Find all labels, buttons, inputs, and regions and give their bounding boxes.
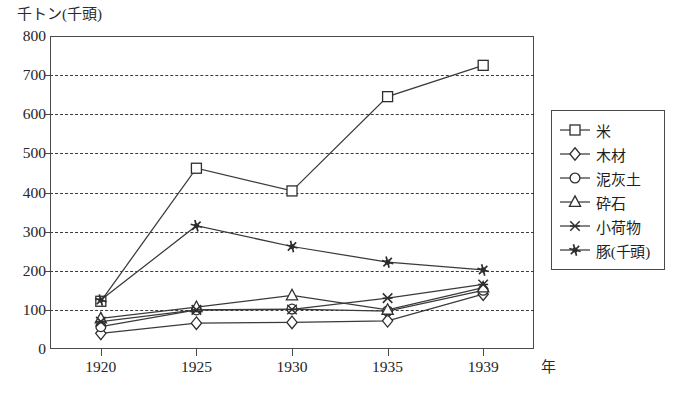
legend-label: 小荷物 bbox=[592, 216, 640, 237]
gridline bbox=[50, 193, 534, 194]
data-point-marker-cross bbox=[570, 221, 580, 231]
y-axis-tick-label: 600 bbox=[4, 105, 46, 123]
legend-label: 泥灰土 bbox=[592, 168, 640, 189]
data-point-marker-square bbox=[570, 125, 580, 135]
y-axis-tick-label: 700 bbox=[4, 66, 46, 84]
x-axis-tick-mark bbox=[483, 349, 484, 356]
legend-label: 豚(千頭) bbox=[592, 240, 650, 261]
y-axis-tick-label: 200 bbox=[4, 262, 46, 280]
y-axis-tick-label: 500 bbox=[4, 144, 46, 162]
x-axis-tick-mark bbox=[196, 349, 197, 356]
legend-label: 米 bbox=[592, 120, 611, 141]
legend-label: 砕石 bbox=[592, 192, 626, 213]
legend-marker-triangle-icon bbox=[558, 194, 592, 210]
x-axis-tick-label: 1920 bbox=[85, 358, 116, 376]
x-axis-title: 年 bbox=[541, 355, 556, 376]
y-axis-tick-group: 0100200300400500600700800 bbox=[0, 36, 46, 349]
y-axis-tick-label: 300 bbox=[4, 223, 46, 241]
y-axis-tick-label: 100 bbox=[4, 301, 46, 319]
x-axis-tick-label: 1935 bbox=[372, 358, 403, 376]
gridline bbox=[50, 271, 534, 272]
legend-item-1[interactable]: 米 bbox=[558, 118, 658, 142]
legend-item-4[interactable]: 砕石 bbox=[558, 190, 658, 214]
y-axis-tick-label: 400 bbox=[4, 184, 46, 202]
legend-item-5[interactable]: 小荷物 bbox=[558, 214, 658, 238]
data-point-marker-diamond bbox=[570, 148, 580, 161]
legend-item-6[interactable]: 豚(千頭) bbox=[558, 238, 658, 262]
legend-label: 木材 bbox=[592, 144, 626, 165]
x-axis-tick-label: 1930 bbox=[277, 358, 308, 376]
gridline bbox=[50, 232, 534, 233]
legend-marker-star-icon bbox=[558, 242, 592, 258]
legend-marker-circle-icon bbox=[558, 170, 592, 186]
gridline bbox=[50, 310, 534, 311]
x-axis-tick-mark bbox=[292, 349, 293, 356]
legend-item-3[interactable]: 泥灰土 bbox=[558, 166, 658, 190]
data-point-marker-triangle bbox=[569, 196, 580, 206]
chart-page: 千トン(千頭) 0100200300400500600700800 192019… bbox=[0, 0, 677, 395]
data-point-marker-circle bbox=[570, 173, 580, 183]
legend-marker-square-icon bbox=[558, 122, 592, 138]
x-axis-tick-mark bbox=[101, 349, 102, 356]
x-axis-tick-label: 1939 bbox=[468, 358, 499, 376]
legend-marker-cross-icon bbox=[558, 218, 592, 234]
legend-item-2[interactable]: 木材 bbox=[558, 142, 658, 166]
x-axis-tick-label: 1925 bbox=[181, 358, 212, 376]
gridline bbox=[50, 75, 534, 76]
y-axis-tick-label: 800 bbox=[4, 27, 46, 45]
y-axis-title: 千トン(千頭) bbox=[17, 2, 102, 23]
legend-marker-diamond-icon bbox=[558, 146, 592, 162]
gridline bbox=[50, 153, 534, 154]
x-axis-tick-mark bbox=[388, 349, 389, 356]
gridline bbox=[50, 114, 534, 115]
legend: 米木材泥灰土砕石小荷物豚(千頭) bbox=[551, 110, 665, 270]
plot-area bbox=[50, 36, 534, 349]
